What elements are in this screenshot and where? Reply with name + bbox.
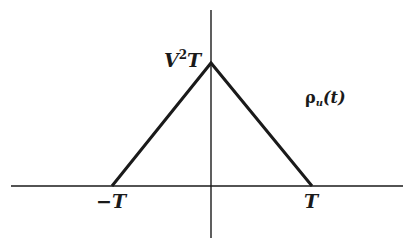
function-symbol: ρ: [305, 88, 316, 107]
apex-label-base: V: [164, 49, 179, 71]
apex-label-tail: T: [187, 49, 201, 71]
autocorrelation-diagram: V2T ρu(t) −T T: [0, 0, 419, 244]
function-label: ρu(t): [305, 90, 345, 108]
apex-label-exponent: 2: [179, 48, 187, 62]
function-argument: (t): [323, 88, 346, 107]
negative-t-label: −T: [96, 192, 126, 211]
positive-t-label: T: [304, 192, 318, 211]
diagram-canvas: [0, 0, 419, 244]
function-subscript: u: [316, 97, 323, 108]
apex-value-label: V2T: [164, 49, 201, 70]
triangle-function-curve: [112, 63, 312, 186]
